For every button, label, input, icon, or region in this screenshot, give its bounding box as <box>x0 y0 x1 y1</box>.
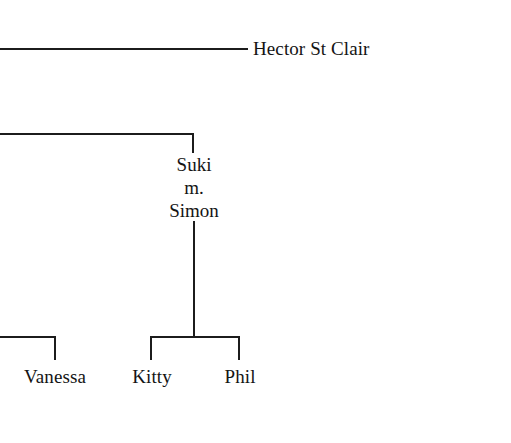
vanessa-bar <box>0 336 56 338</box>
simon-descender <box>193 221 195 337</box>
family-tree-diagram: Hector St Clair Suki m. Simon Kitty Phil… <box>0 0 511 443</box>
person-label-hector-st-clair: Hector St Clair <box>253 37 370 60</box>
vanessa-drop <box>54 336 56 360</box>
person-label-vanessa: Vanessa <box>24 365 86 388</box>
children-bar <box>150 336 240 338</box>
suki-sibling-bar <box>0 133 194 135</box>
person-label-simon: Simon <box>169 199 219 222</box>
suki-drop <box>192 133 194 153</box>
person-label-kitty: Kitty <box>132 365 172 388</box>
marriage-marker: m. <box>169 176 219 199</box>
phil-drop <box>238 336 240 360</box>
couple-block-suki-simon: Suki m. Simon <box>169 153 219 222</box>
person-label-suki: Suki <box>169 153 219 176</box>
person-label-phil: Phil <box>224 365 255 388</box>
kitty-drop <box>150 336 152 360</box>
hector-spouse-line <box>0 48 248 50</box>
